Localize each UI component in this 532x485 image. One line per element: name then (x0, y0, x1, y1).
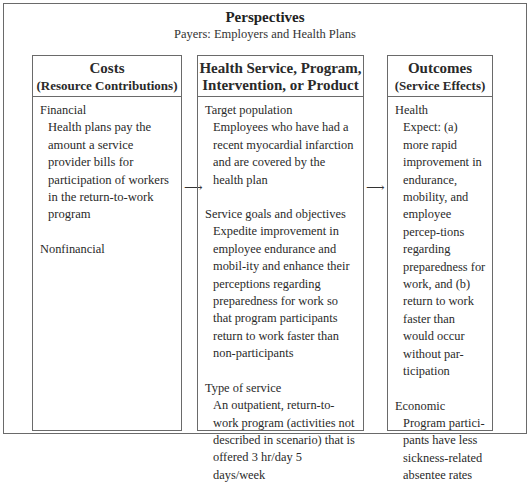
outcomes-title: Outcomes (388, 60, 492, 77)
section-text: Expect: (a) more rapid improvement in en… (395, 119, 486, 380)
service-body: Target population Employees who have had… (198, 97, 363, 484)
outcomes-header: Outcomes (Service Effects) (388, 56, 492, 97)
costs-body: Financial Health plans pay the amount a … (33, 97, 181, 258)
section-label: Economic (395, 398, 486, 415)
costs-header: Costs (Resource Contributions) (33, 56, 181, 97)
section-label: Service goals and objectives (205, 206, 357, 223)
section-text: Program partici-pants have less sickness… (395, 415, 486, 485)
outcomes-box: Outcomes (Service Effects) Health Expect… (387, 55, 493, 431)
section-label: Target population (205, 102, 357, 119)
service-header: Health Service, Program, Intervention, o… (198, 56, 363, 97)
section-text: Health plans pay the amount a service pr… (40, 119, 175, 223)
outcomes-subtitle: (Service Effects) (388, 77, 492, 94)
section-label: Health (395, 102, 486, 119)
arrow-right-icon: ⟶ (366, 180, 385, 196)
section-label: Type of service (205, 380, 357, 397)
outcomes-body: Health Expect: (a) more rapid improvemen… (388, 97, 492, 485)
section-text: Expedite improvement in employee enduran… (205, 223, 357, 362)
section-text: An outpatient, return-to-work program (a… (205, 397, 357, 484)
section-text: Employees who have had a recent myocardi… (205, 119, 357, 189)
perspectives-title: Perspectives (4, 9, 526, 26)
section-label: Financial (40, 102, 175, 119)
costs-title: Costs (33, 60, 181, 77)
service-box: Health Service, Program, Intervention, o… (197, 55, 364, 431)
costs-subtitle: (Resource Contributions) (33, 77, 181, 94)
costs-box: Costs (Resource Contributions) Financial… (32, 55, 182, 431)
service-title: Health Service, Program, (198, 60, 363, 77)
perspectives-subtitle: Payers: Employers and Health Plans (4, 27, 526, 42)
service-subtitle: Intervention, or Product (198, 77, 363, 94)
section-label: Nonfinancial (40, 241, 175, 258)
